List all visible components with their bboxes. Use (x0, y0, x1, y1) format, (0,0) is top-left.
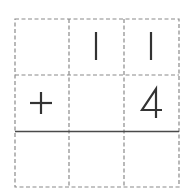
row-addend-2 (30, 89, 162, 118)
row-answer (16, 133, 178, 186)
plus-sign (30, 92, 52, 114)
answer-cell-ones[interactable] (125, 133, 178, 186)
answer-cell-hundreds[interactable] (16, 133, 68, 186)
addition-worksheet (0, 0, 184, 194)
answer-cell-tens[interactable] (70, 133, 123, 186)
digit-four (142, 89, 162, 118)
